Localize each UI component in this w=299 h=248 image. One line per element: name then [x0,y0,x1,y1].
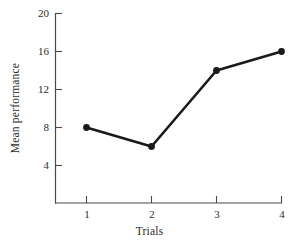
x-tick-label-4: 4 [272,209,292,220]
x-tick-label-1: 1 [77,209,97,220]
y-tick-label-4: 4 [27,160,49,171]
y-tick-label-12: 12 [27,84,49,95]
data-point-4 [278,48,285,55]
x-axis-title: Trials [0,225,299,237]
x-tick-label-2: 2 [142,209,162,220]
x-axis-ticks [87,196,282,203]
line-chart-figure: 20 16 12 8 4 1 2 3 4 Trials Mean perform… [0,0,299,248]
y-tick-label-20: 20 [27,8,49,19]
data-point-1 [83,124,90,131]
y-tick-label-8: 8 [27,122,49,133]
y-axis-ticks [56,14,63,166]
x-tick-label-3: 3 [207,209,227,220]
data-point-2 [148,143,155,150]
y-tick-label-16: 16 [27,46,49,57]
y-axis-title: Mean performance [9,48,21,168]
data-series-line [87,52,282,147]
data-point-3 [213,67,220,74]
